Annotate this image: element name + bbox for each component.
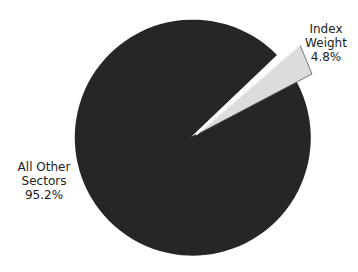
label-line: All Other xyxy=(14,160,74,174)
label-line: Weight xyxy=(296,36,356,50)
label-line: Sectors xyxy=(14,174,74,188)
label-all-other-sectors: All Other Sectors 95.2% xyxy=(14,160,74,202)
label-value: 95.2% xyxy=(14,188,74,202)
label-value: 4.8% xyxy=(296,50,356,64)
label-line: Index xyxy=(296,22,356,36)
label-index-weight: Index Weight 4.8% xyxy=(296,22,356,64)
pie-slice-all-other-sectors xyxy=(75,20,311,256)
